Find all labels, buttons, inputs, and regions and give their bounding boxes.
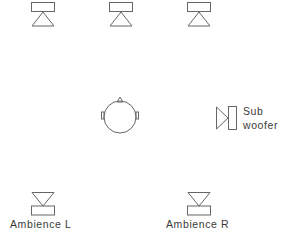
ambience-left-label: Ambience L	[10, 218, 71, 230]
center-speaker-icon	[109, 2, 133, 26]
subwoofer-icon	[216, 106, 240, 130]
subwoofer-label-line2: woofer	[243, 118, 278, 132]
ambience-right-speaker-icon	[187, 192, 211, 216]
front-left-speaker-icon	[31, 2, 55, 26]
listener-head-icon	[100, 97, 142, 137]
front-right-speaker-icon	[187, 2, 211, 26]
subwoofer-label-line1: Sub	[243, 104, 278, 118]
ambience-right-label: Ambience R	[166, 218, 229, 230]
ambience-left-speaker-icon	[31, 192, 55, 216]
subwoofer-label: Sub woofer	[243, 104, 278, 132]
